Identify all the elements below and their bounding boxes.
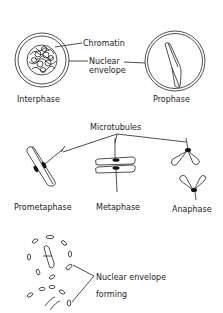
label-anaphase: Anaphase (172, 205, 212, 214)
prometaphase-chromosome (27, 146, 65, 186)
label-prometaphase: Prometaphase (14, 203, 72, 212)
label-nuclear: Nuclear (89, 57, 121, 66)
interphase-cell: Interphase (15, 33, 69, 104)
label-chromatin: Chromatin (83, 39, 125, 48)
chromatin-mass (27, 45, 57, 75)
metaphase-chromosome (95, 138, 135, 192)
label-nuclear-envelope: Nuclear envelope (96, 273, 166, 282)
envelope-forming-callout: Nuclear envelope forming (72, 265, 166, 302)
forming-nucleus-upper (27, 235, 72, 279)
label-prophase: Prophase (153, 95, 190, 104)
forming-nucleus-lower (27, 285, 71, 310)
label-interphase: Interphase (17, 95, 60, 104)
label-metaphase: Metaphase (96, 203, 140, 212)
nuclear-envelope-callout: Nuclear envelope (69, 57, 145, 75)
anaphase-chromosomes (171, 138, 206, 200)
label-microtubules: Microtubules (90, 123, 141, 132)
label-envelope: envelope (89, 66, 126, 75)
mitosis-diagram: Interphase Chromatin Nuclear envelope Pr… (0, 0, 223, 313)
label-forming: forming (96, 290, 127, 299)
prophase-cell: Prophase (145, 31, 205, 104)
microtubules-callout: Microtubules (63, 123, 186, 152)
prophase-chromosome (165, 43, 181, 89)
